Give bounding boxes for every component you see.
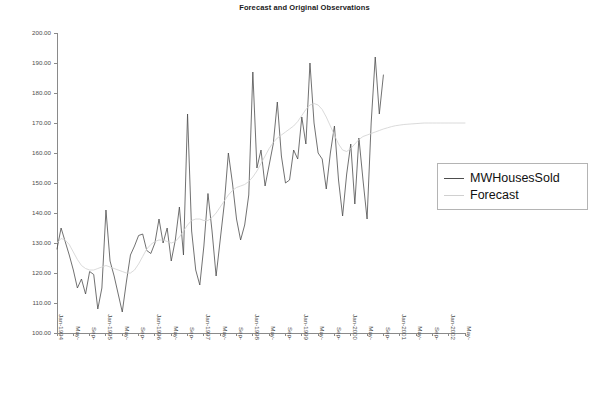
y-tick-label: 200.00: [32, 29, 51, 36]
x-tick-label: Sep-: [91, 327, 98, 340]
chart-container: Forecast and Original Observations 200.0…: [0, 0, 609, 393]
x-tick-label: Jan-1999: [303, 314, 310, 340]
y-tick-label: 150.00: [32, 179, 51, 186]
x-tick-label: May-: [417, 326, 424, 340]
y-tick-label: 160.00: [32, 149, 51, 156]
x-axis: Jan-1994May-Sep-Jan-1995May-Sep-Jan-1996…: [57, 314, 473, 340]
y-tick-label: 100.00: [32, 329, 51, 336]
y-axis: 200.00190.00180.00170.00160.00150.00140.…: [32, 29, 57, 336]
x-tick-label: Jan-1998: [254, 314, 261, 340]
x-tick-label: Sep-: [336, 327, 343, 340]
x-tick-label: Jan-2000: [352, 314, 359, 340]
x-tick-label: May-: [75, 326, 82, 340]
x-tick-label: May-: [270, 326, 277, 340]
y-tick-label: 120.00: [32, 269, 51, 276]
series-lines: [57, 57, 465, 312]
y-tick-label: 140.00: [32, 209, 51, 216]
y-tick-label: 170.00: [32, 119, 51, 126]
x-tick-label: Jan-1994: [58, 314, 65, 340]
legend-item-forecast: Forecast: [444, 187, 587, 204]
x-tick-label: May-: [368, 326, 375, 340]
x-tick-label: May-: [173, 326, 180, 340]
y-tick-label: 180.00: [32, 89, 51, 96]
legend-swatch-mwhousessold: [444, 178, 464, 179]
y-tick-label: 190.00: [32, 59, 51, 66]
y-tick-label: 130.00: [32, 239, 51, 246]
x-tick-label: May-: [222, 326, 229, 340]
x-tick-label: Sep-: [238, 327, 245, 340]
x-tick-label: Sep-: [287, 327, 294, 340]
x-tick-label: Jan-2001: [401, 314, 408, 340]
chart-legend: MWHousesSold Forecast: [437, 163, 588, 210]
x-tick-label: Jan-1996: [156, 314, 163, 340]
legend-swatch-forecast: [444, 195, 464, 196]
legend-label-mwhousessold: MWHousesSold: [470, 172, 560, 185]
series-line-mwhousessold: [57, 57, 383, 312]
x-tick-label: May-: [466, 326, 473, 340]
x-tick-label: Jan-2002: [450, 314, 457, 340]
x-tick-label: Jan-1995: [107, 314, 114, 340]
legend-label-forecast: Forecast: [470, 189, 519, 202]
y-tick-label: 110.00: [33, 299, 52, 306]
x-tick-label: Sep-: [140, 327, 147, 340]
x-tick-label: Sep-: [434, 327, 441, 340]
x-tick-label: Sep-: [189, 327, 196, 340]
legend-item-mwhousessold: MWHousesSold: [444, 170, 587, 187]
x-tick-label: May-: [319, 326, 326, 340]
x-tick-label: Sep-: [385, 327, 392, 340]
series-line-forecast: [57, 104, 465, 274]
x-tick-label: May-: [124, 326, 131, 340]
x-tick-label: Jan-1997: [205, 314, 212, 340]
